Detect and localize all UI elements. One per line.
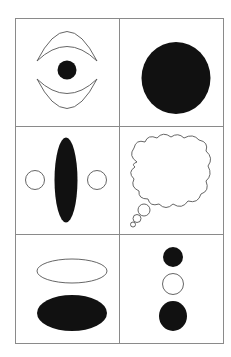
tall-filled-ellipse-shape: [55, 138, 78, 223]
big-filled-circle-shape: [142, 42, 211, 114]
pupil-dot-shape: [58, 61, 77, 80]
left-outline-circle-shape: [26, 171, 45, 190]
panel-ellipse-with-circles: [26, 138, 107, 223]
panel-two-ellipses: [37, 259, 107, 331]
outline-horizontal-ellipse-shape: [37, 259, 107, 283]
panel-thought-bubble: [131, 134, 211, 227]
top-filled-circle-shape: [163, 247, 183, 267]
panel-three-circles: [159, 247, 187, 331]
middle-outline-circle-shape: [163, 274, 184, 295]
panel-big-circle: [142, 42, 211, 114]
thought-trail-circle-large: [138, 204, 150, 216]
bottom-filled-circle-shape: [159, 301, 187, 331]
right-outline-circle-shape: [88, 171, 107, 190]
filled-horizontal-ellipse-shape: [37, 295, 107, 331]
panel-eye: [37, 32, 97, 109]
thought-trail-circle-small: [131, 222, 136, 227]
lower-crescent-shape: [37, 79, 97, 109]
thought-trail-circle-medium: [133, 215, 141, 223]
thought-cloud-shape: [131, 134, 211, 207]
upper-crescent-shape: [37, 32, 97, 62]
figure-canvas: [0, 0, 231, 357]
